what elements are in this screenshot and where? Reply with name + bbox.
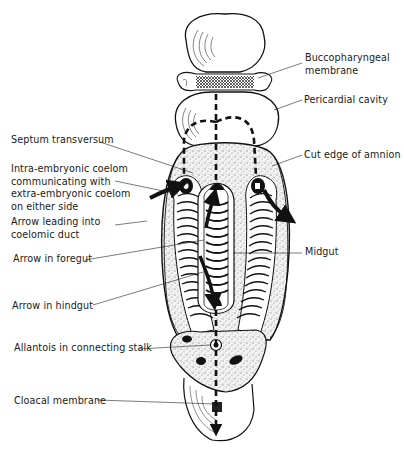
label-line: on either side xyxy=(11,201,130,214)
label-pericardial-cavity: Pericardial cavity xyxy=(304,94,388,107)
label-arrow-in-hindgut: Arrow in hindgut xyxy=(12,300,93,313)
label-cut-edge-of-amnion: Cut edge of amnion xyxy=(304,149,401,162)
head-fold xyxy=(185,14,264,72)
label-allantois: Allantois in connecting stalk xyxy=(14,342,152,355)
label-line: membrane xyxy=(305,65,390,78)
label-arrow-in-foregut: Arrow in foregut xyxy=(13,253,92,266)
label-line: Buccopharyngeal xyxy=(305,52,390,65)
label-line: communicating with xyxy=(11,176,130,189)
label-intra-embryonic-coelom: Intra-embryonic coelom communicating wit… xyxy=(11,163,130,213)
gut-tube xyxy=(198,183,234,313)
connecting-stalk xyxy=(170,330,266,392)
label-line: extra-embryonic coelom xyxy=(11,188,130,201)
label-septum-transversum: Septum transversum xyxy=(11,134,114,147)
label-line: coelomic duct xyxy=(11,229,100,242)
embryo-diagram: Buccopharyngeal membrane Pericardial cav… xyxy=(0,0,404,450)
label-cloacal-membrane: Cloacal membrane xyxy=(14,395,106,408)
label-line: Arrow leading into xyxy=(11,216,100,229)
buccopharyngeal-membrane xyxy=(177,72,272,90)
label-buccopharyngeal-membrane: Buccopharyngeal membrane xyxy=(305,52,390,77)
label-arrow-coelomic-duct: Arrow leading into coelomic duct xyxy=(11,216,100,241)
label-midgut: Midgut xyxy=(305,246,339,259)
label-line: Intra-embryonic coelom xyxy=(11,163,130,176)
